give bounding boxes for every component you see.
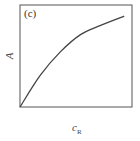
panel-label: (c) — [24, 7, 36, 19]
data-curve — [20, 16, 124, 107]
x-axis-label: cR — [72, 121, 82, 136]
x-axis-label-sub: R — [77, 128, 82, 136]
y-axis-label: A — [3, 53, 15, 60]
chart-plot-area — [0, 0, 140, 141]
plot-frame — [20, 5, 132, 107]
